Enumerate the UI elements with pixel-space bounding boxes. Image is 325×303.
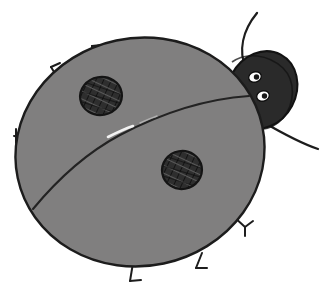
ladybug-illustration [0,0,325,303]
pupil-upper [254,74,259,79]
illustration-canvas: Ladybug ladybug [0,0,325,303]
pupil-lower [262,93,267,98]
